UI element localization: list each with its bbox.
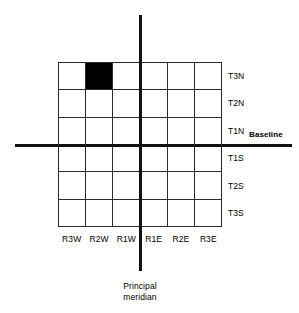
grid-cell [59, 118, 86, 145]
row-label-t3n: T3N [228, 62, 268, 90]
grid-cell [140, 118, 167, 145]
grid-cell [168, 63, 195, 90]
grid-cell [113, 172, 140, 199]
grid-cell [140, 172, 167, 199]
grid-cell [195, 90, 222, 117]
column-label-r2e: R2E [167, 233, 194, 245]
grid-cell [168, 118, 195, 145]
grid-cell [195, 63, 222, 90]
principal-meridian-label-line1: Principal [100, 281, 180, 292]
township-range-diagram: T3N T2N T1N T1S T2S T3S R3W R2W R1W R1E … [0, 0, 299, 313]
grid-cell [140, 63, 167, 90]
grid-cell [140, 90, 167, 117]
range-column-labels: R3W R2W R1W R1E R2E R3E [58, 233, 222, 245]
grid-cell [59, 90, 86, 117]
column-label-r2w: R2W [85, 233, 112, 245]
township-row-labels: T3N T2N T1N T1S T2S T3S [228, 62, 268, 227]
grid-cell [140, 145, 167, 172]
column-label-r3w: R3W [58, 233, 85, 245]
grid-cell [59, 200, 86, 227]
grid-cell [168, 145, 195, 172]
grid-cell [113, 63, 140, 90]
grid-cell [168, 200, 195, 227]
grid-cell [195, 118, 222, 145]
grid-cell [113, 200, 140, 227]
grid-cell [59, 145, 86, 172]
grid-cell [59, 63, 86, 90]
grid-cell [195, 145, 222, 172]
grid-cell [168, 172, 195, 199]
principal-meridian-label-line2: meridian [100, 292, 180, 303]
grid-cell [113, 145, 140, 172]
grid-cell-highlighted [86, 63, 113, 90]
grid-cell [195, 172, 222, 199]
grid-cell [86, 145, 113, 172]
grid-cell [86, 200, 113, 227]
baseline-label: Baseline [249, 131, 283, 139]
row-label-t1s: T1S [228, 145, 268, 173]
row-label-t2s: T2S [228, 172, 268, 200]
grid-cell [113, 90, 140, 117]
column-label-r1w: R1W [113, 233, 140, 245]
column-label-r3e: R3E [195, 233, 222, 245]
grid-cell [59, 172, 86, 199]
grid-cell [113, 118, 140, 145]
grid-cell [195, 200, 222, 227]
grid-cell [140, 200, 167, 227]
grid-cell [86, 118, 113, 145]
principal-meridian-label: Principal meridian [100, 281, 180, 303]
column-label-r1e: R1E [140, 233, 167, 245]
row-label-t2n: T2N [228, 90, 268, 118]
grid-cell [86, 90, 113, 117]
grid-cell [86, 172, 113, 199]
row-label-t3s: T3S [228, 200, 268, 228]
grid-cell [168, 90, 195, 117]
